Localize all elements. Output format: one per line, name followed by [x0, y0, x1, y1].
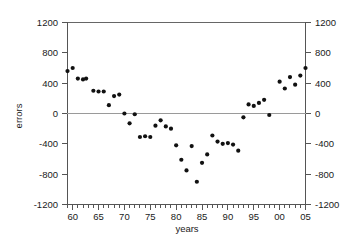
data-point — [283, 86, 287, 90]
data-point — [257, 101, 261, 105]
data-point — [133, 112, 137, 116]
data-point — [96, 89, 100, 93]
x-tick-label-2: 70 — [119, 211, 130, 222]
y-tick-label-right-2: 400 — [315, 78, 331, 89]
data-point — [226, 141, 230, 145]
chart-figure: 1200 800 400 0 -400 -800 -1200 1200 800 … — [0, 0, 352, 246]
data-point — [241, 115, 245, 119]
data-point — [303, 66, 307, 70]
data-point — [205, 152, 209, 156]
data-point — [252, 104, 256, 108]
data-point — [122, 111, 126, 115]
data-point — [215, 139, 219, 143]
data-point — [200, 161, 204, 165]
data-point — [221, 142, 225, 146]
y-tick-label-left-3: 0 — [53, 108, 58, 119]
data-point — [174, 143, 178, 147]
y-tick-right-group — [306, 23, 311, 205]
data-point — [210, 133, 214, 137]
x-tick-label-8: 00 — [274, 211, 285, 222]
data-point — [278, 80, 282, 84]
y-tick-label-right-6: -1200 — [315, 199, 339, 210]
data-point — [153, 124, 157, 128]
x-tick-label-7: 95 — [248, 211, 259, 222]
y-tick-label-right-5: -800 — [315, 169, 334, 180]
x-tick-label-4: 80 — [171, 211, 182, 222]
data-point — [190, 144, 194, 148]
scatter-plot: 1200 800 400 0 -400 -800 -1200 1200 800 … — [0, 0, 352, 246]
data-point — [127, 121, 131, 125]
data-point — [184, 168, 188, 172]
data-point — [117, 92, 121, 96]
data-point — [195, 180, 199, 184]
data-point — [112, 94, 116, 98]
data-point — [293, 83, 297, 87]
y-tick-label-left-4: -400 — [39, 138, 58, 149]
data-point — [148, 135, 152, 139]
y-tick-label-right-4: -400 — [315, 138, 334, 149]
y-axis-left: 1200 800 400 0 -400 -800 -1200 — [34, 17, 67, 210]
data-point — [76, 77, 80, 81]
x-tick-label-1: 65 — [93, 211, 104, 222]
y-tick-label-right-3: 0 — [315, 108, 320, 119]
data-point — [231, 142, 235, 146]
x-tick-label-5: 85 — [197, 211, 208, 222]
data-point — [169, 127, 173, 131]
data-point — [71, 66, 75, 70]
data-point — [159, 118, 163, 122]
y-axis-title: errors — [13, 103, 24, 128]
data-point — [262, 98, 266, 102]
y-tick-label-left-6: -1200 — [34, 199, 58, 210]
y-tick-label-left-2: 400 — [42, 78, 58, 89]
data-point — [143, 134, 147, 138]
y-tick-label-left-1: 800 — [42, 47, 58, 58]
y-tick-left-group — [62, 23, 67, 205]
data-point-group — [65, 66, 307, 184]
y-tick-label-right-0: 1200 — [315, 17, 336, 28]
data-point — [236, 149, 240, 153]
data-point — [138, 135, 142, 139]
data-point — [91, 89, 95, 93]
data-point — [65, 69, 69, 73]
x-tick-label-3: 75 — [145, 211, 156, 222]
y-tick-label-left-0: 1200 — [37, 17, 58, 28]
data-point — [107, 103, 111, 107]
data-point — [298, 73, 302, 77]
data-point — [164, 124, 168, 128]
y-tick-label-left-5: -800 — [39, 169, 58, 180]
x-tick-label-6: 90 — [223, 211, 234, 222]
data-point — [288, 75, 292, 79]
x-tick-label-9: 05 — [300, 211, 311, 222]
x-axis-tick-labels: 60657075808590950005 — [67, 211, 310, 222]
data-point — [84, 77, 88, 81]
x-axis-major-ticks — [73, 205, 306, 210]
data-point — [267, 113, 271, 117]
data-point — [246, 102, 250, 106]
x-axis-title: years — [175, 223, 198, 234]
y-tick-label-right-1: 800 — [315, 47, 331, 58]
y-axis-right: 1200 800 400 0 -400 -800 -1200 — [306, 17, 339, 210]
x-tick-label-0: 60 — [67, 211, 78, 222]
data-point — [102, 89, 106, 93]
data-point — [179, 158, 183, 162]
